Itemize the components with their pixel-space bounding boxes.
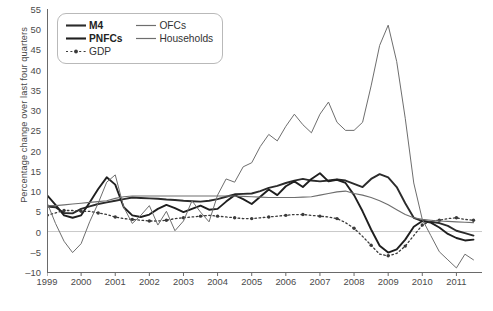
legend-column-gap xyxy=(122,19,135,32)
series-marker-gdp xyxy=(114,215,117,218)
legend-label-cell: M4 xyxy=(89,19,122,32)
legend-item-ofcs: OFCs xyxy=(159,20,186,31)
legend-label-cell: Households xyxy=(159,32,213,45)
series-marker-gdp xyxy=(386,254,389,257)
series-marker-gdp xyxy=(318,214,321,217)
legend-row: M4OFCs xyxy=(65,19,213,32)
legend-table: M4OFCsPNFCsHouseholdsGDP xyxy=(65,19,213,58)
series-marker-gdp xyxy=(404,244,407,247)
legend-item-pnfcs: PNFCs xyxy=(89,33,122,44)
series-marker-gdp xyxy=(148,219,151,222)
y-tick-label: 5 xyxy=(36,206,41,217)
series-marker-gdp xyxy=(335,217,338,220)
legend-swatch-cell xyxy=(65,19,89,32)
series-marker-gdp xyxy=(216,214,219,217)
series-marker-gdp xyxy=(301,213,304,216)
series-marker-gdp xyxy=(79,210,82,213)
legend-label-cell: OFCs xyxy=(159,19,213,32)
series-marker-gdp xyxy=(165,219,168,222)
series-marker-gdp xyxy=(96,211,99,214)
legend-row: PNFCsHouseholds xyxy=(65,32,213,45)
y-tick-label: 25 xyxy=(31,125,41,136)
series-marker-gdp xyxy=(62,209,65,212)
y-tick-label: 20 xyxy=(31,145,41,156)
y-tick-label: 15 xyxy=(31,165,41,176)
series-line-m4 xyxy=(47,174,473,236)
legend-swatch-icon xyxy=(135,21,157,30)
legend-row: GDP xyxy=(65,45,213,58)
y-tick-label: –5 xyxy=(31,246,41,257)
series-marker-gdp xyxy=(284,214,287,217)
legend-label-cell: GDP xyxy=(89,45,122,58)
series-marker-gdp xyxy=(455,216,458,219)
series-marker-gdp xyxy=(421,223,424,226)
y-tick-label: 0 xyxy=(36,226,41,237)
y-tick-label: 35 xyxy=(31,84,41,95)
legend-label-cell: PNFCs xyxy=(89,32,122,45)
legend-swatch-cell xyxy=(65,45,89,58)
legend-swatch-icon xyxy=(135,34,157,43)
legend-swatch-icon xyxy=(65,34,87,43)
series-marker-gdp xyxy=(369,244,372,247)
legend-item-m4: M4 xyxy=(89,20,103,31)
legend-item-gdp: GDP xyxy=(89,46,111,57)
series-marker-gdp xyxy=(250,217,253,220)
chart-legend: M4OFCsPNFCsHouseholdsGDP xyxy=(57,13,223,64)
legend-swatch-icon xyxy=(65,47,87,56)
y-tick-label: 45 xyxy=(31,44,41,55)
chart-figure: Percentage change over last four quarter… xyxy=(0,0,493,311)
legend-label-cell xyxy=(159,45,213,58)
legend-item-households: Households xyxy=(159,33,213,44)
y-axis-tick-labels: 5550454035302520151050–5–10 xyxy=(0,9,41,272)
legend-swatch-cell xyxy=(135,32,159,45)
legend-column-gap xyxy=(122,45,135,58)
series-marker-gdp xyxy=(233,216,236,219)
legend-swatch-icon xyxy=(65,21,87,30)
series-marker-gdp xyxy=(267,215,270,218)
legend-swatch-cell xyxy=(65,32,89,45)
y-tick-label: 55 xyxy=(31,4,41,15)
legend-swatch-cell xyxy=(135,45,159,58)
legend-column-gap xyxy=(122,32,135,45)
legend-swatch-cell xyxy=(135,19,159,32)
y-tick-label: 50 xyxy=(31,24,41,35)
series-marker-gdp xyxy=(199,214,202,217)
y-tick-label: 10 xyxy=(31,186,41,197)
y-tick-label: 40 xyxy=(31,64,41,75)
series-marker-gdp xyxy=(472,219,475,222)
series-marker-gdp xyxy=(352,227,355,230)
y-tick-label: 30 xyxy=(31,105,41,116)
